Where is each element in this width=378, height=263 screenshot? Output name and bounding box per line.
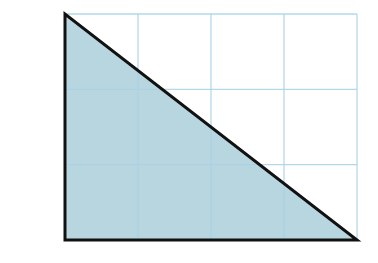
grid-triangle-diagram — [0, 0, 378, 263]
